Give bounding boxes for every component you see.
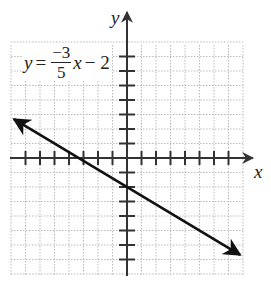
equation-constant: − 2 — [85, 52, 110, 74]
equation-label: y = −3 5 x − 2 — [22, 44, 112, 81]
fraction-numerator: −3 — [51, 44, 71, 63]
equation-equals: = — [35, 52, 46, 74]
fraction-denominator: 5 — [57, 63, 66, 81]
y-axis-label: y — [111, 8, 119, 27]
equation-lhs: y — [24, 52, 32, 74]
x-axis-label: x — [254, 162, 262, 181]
equation-variable: x — [73, 52, 81, 74]
equation-fraction: −3 5 — [51, 44, 71, 81]
